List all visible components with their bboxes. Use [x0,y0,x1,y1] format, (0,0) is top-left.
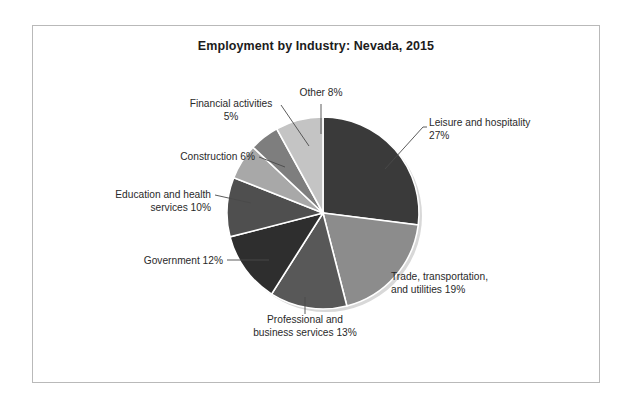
slice-label-trade: Trade, transportation,and utilities 19% [391,271,488,295]
slice-label-financial: Financial activities5% [190,98,273,122]
slice-label-education: Education and healthservices 10% [115,189,211,213]
pie-slice-0[interactable] [323,117,419,225]
slice-label-construction: Construction 6% [180,151,255,162]
pie-chart: Leisure and hospitality27%Trade, transpo… [33,26,601,384]
slice-label-professional: Professional andbusiness services 13% [253,314,357,338]
slice-label-other: Other 8% [299,87,342,98]
slice-label-leisure: Leisure and hospitality27% [429,117,531,141]
slice-label-government: Government 12% [144,255,223,266]
chart-frame: Employment by Industry: Nevada, 2015 Lei… [32,25,600,383]
